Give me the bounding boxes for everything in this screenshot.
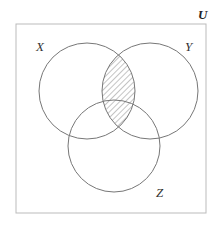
universe-label: U [198,7,208,22]
set-y-label: Y [185,39,194,54]
set-x-label: X [35,39,45,54]
venn-diagram: U X Y Z [0,0,222,226]
set-z-label: Z [156,185,164,200]
